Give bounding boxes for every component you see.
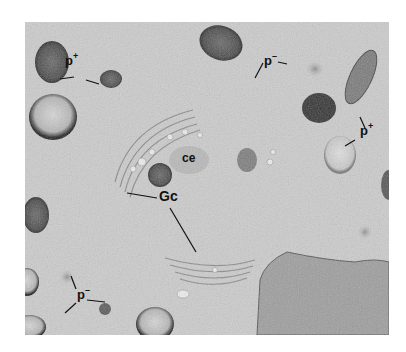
label-text: p bbox=[264, 53, 272, 68]
label-text: p bbox=[360, 123, 368, 138]
label-text: p bbox=[77, 287, 85, 302]
label-text: ce bbox=[182, 151, 195, 165]
electron-micrograph: p+ p– p+ ce Gc p– bbox=[25, 22, 389, 335]
label-p-plus-right: p+ bbox=[360, 124, 373, 137]
label-text: p bbox=[65, 53, 73, 68]
label-superscript: – bbox=[272, 51, 277, 61]
label-superscript: – bbox=[85, 285, 90, 295]
label-p-plus-top-left: p+ bbox=[65, 54, 78, 67]
label-Gc: Gc bbox=[159, 189, 178, 203]
label-p-minus-bottom-left: p– bbox=[77, 288, 90, 301]
label-superscript: + bbox=[368, 121, 373, 131]
label-ce: ce bbox=[182, 152, 195, 164]
label-superscript: + bbox=[73, 51, 78, 61]
label-p-minus-top-right: p– bbox=[264, 54, 277, 67]
label-text: Gc bbox=[159, 188, 178, 204]
